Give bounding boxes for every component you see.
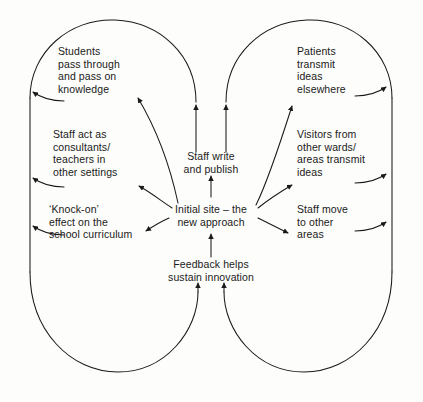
arrow-center-to-staff-move	[258, 218, 288, 233]
arrow-staff-move-to-right-spine	[355, 222, 386, 231]
node-visitors-from-other-wards: Visitors from other wards/ areas transmi…	[297, 128, 365, 178]
arrow-center-to-patients	[256, 106, 292, 205]
node-staff-write-and-publish: Staff write and publish	[178, 150, 244, 175]
arrow-patients-to-right-spine	[355, 87, 386, 96]
node-students-pass-through: Students pass through and pass on knowle…	[58, 45, 120, 95]
diffusion-diagram: Students pass through and pass on knowle…	[0, 0, 423, 402]
node-initial-site: Initial site – the new approach	[161, 203, 261, 228]
arrow-center-to-students	[138, 98, 178, 203]
node-staff-act-as-consultants: Staff act as consultants/ teachers in ot…	[53, 128, 117, 178]
node-feedback-helps-sustain-innovation: Feedback helps sustain innovation	[151, 258, 271, 283]
node-staff-move-to-other-areas: Staff move to other areas	[297, 203, 348, 241]
arrow-left-spine-to-staff-consultants	[33, 178, 64, 187]
left-loop-bottom-arc	[30, 272, 198, 372]
node-patients-transmit-ideas: Patients transmit ideas elsewhere	[297, 45, 346, 95]
node-knock-on-effect: ‘Knock-on’ effect on the school curricul…	[49, 203, 132, 241]
right-loop-bottom-arc	[224, 272, 392, 372]
